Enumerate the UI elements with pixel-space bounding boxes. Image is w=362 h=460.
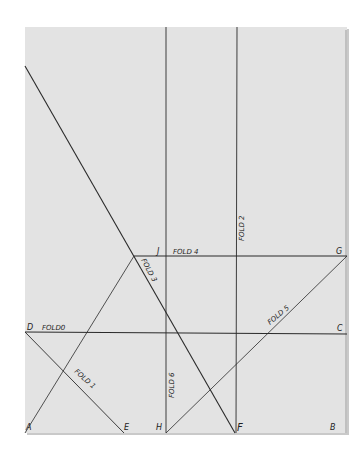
fold2-label: FOLD 2 <box>238 215 246 241</box>
point-d-label: D <box>27 323 33 332</box>
point-f-label: F <box>237 422 243 433</box>
fold4-label: FOLD 4 <box>173 248 199 256</box>
fold0-label: FOLD0 <box>42 324 66 332</box>
fold6-label: FOLD 6 <box>168 372 176 398</box>
point-c-label: C <box>337 324 343 333</box>
point-b-label: B <box>330 423 336 432</box>
point-h-label: H <box>156 423 162 432</box>
point-a-label: A <box>25 423 31 432</box>
point-g-label: G <box>336 247 342 256</box>
fold-diagram: A E H F B D C J G FOLD0 FOLD 1 FOLD 2 FO… <box>0 0 362 460</box>
